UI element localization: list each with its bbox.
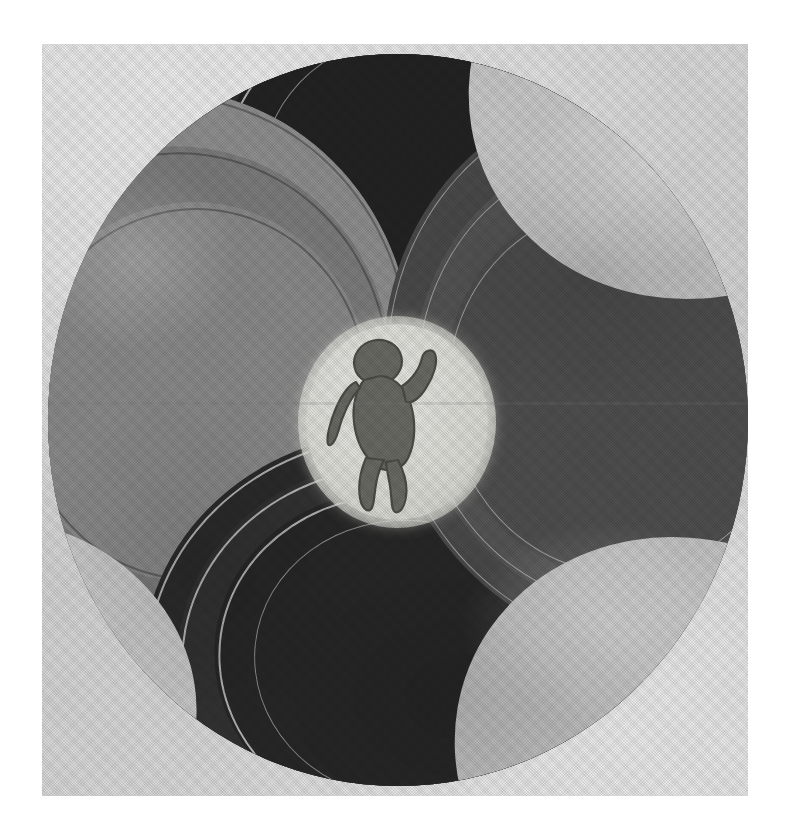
artwork-page: A circular pinwheel composition of neste… [0, 0, 790, 839]
printed-plate [42, 44, 748, 796]
center-circle [306, 324, 488, 520]
spiral-disc [48, 54, 748, 786]
infant-figure-icon [306, 324, 488, 520]
